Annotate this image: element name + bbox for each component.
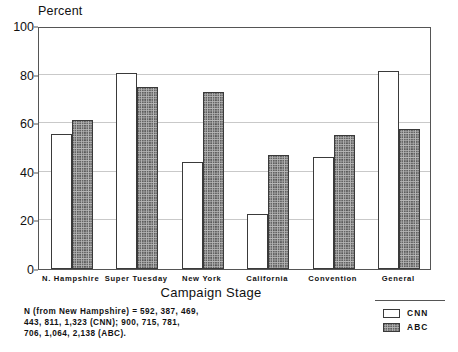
chart-footnote: N (from New Hampshire) = 592, 387, 469,4…	[24, 306, 239, 340]
x-axis-title: Campaign Stage	[0, 285, 458, 300]
legend-swatch-abc	[383, 323, 400, 332]
x-tick-label-general: General	[382, 274, 415, 283]
y-axis-ticks: 020406080100	[0, 27, 34, 270]
x-tick-label-new-york: New York	[182, 274, 222, 283]
bar-cnn-general	[378, 71, 399, 269]
legend-divider	[375, 300, 445, 301]
y-tick-label: 40	[4, 166, 34, 180]
x-tick-label-super-tuesday: Super Tuesday	[105, 274, 168, 283]
legend: CNN ABC	[357, 300, 452, 336]
bar-cnn-new-york	[182, 162, 203, 269]
y-axis-title: Percent	[38, 4, 82, 18]
bar-abc-california	[268, 155, 289, 269]
footnote-line: 706, 1,064, 2,138 (ABC).	[24, 328, 239, 339]
bar-abc-general	[399, 129, 420, 269]
y-tick-label: 20	[4, 214, 34, 228]
gridline	[39, 122, 430, 123]
legend-swatch-cnn	[383, 309, 400, 318]
plot-area	[38, 27, 431, 270]
bar-abc-new-york	[203, 92, 224, 269]
y-tick-label: 100	[4, 20, 34, 34]
bar-cnn-super-tuesday	[116, 73, 137, 269]
legend-label-cnn: CNN	[407, 308, 428, 318]
bar-cnn-convention	[313, 157, 334, 269]
bar-abc-convention	[334, 135, 355, 269]
footnote-line: N (from New Hampshire) = 592, 387, 469,	[24, 306, 239, 317]
footnote-line: 443, 811, 1,323 (CNN); 900, 715, 781,	[24, 317, 239, 328]
x-tick-label-n-hampshire: N. Hampshire	[42, 274, 99, 283]
y-tick-label: 80	[4, 69, 34, 83]
legend-label-abc: ABC	[407, 322, 428, 332]
legend-item-abc: ABC	[357, 322, 452, 332]
x-tick-label-convention: Convention	[308, 274, 357, 283]
x-axis-title-text: Campaign Stage	[160, 285, 261, 300]
bar-abc-super-tuesday	[137, 87, 158, 269]
gridline	[39, 74, 430, 75]
gridline	[39, 171, 430, 172]
gridline	[39, 219, 430, 220]
bar-cnn-california	[247, 214, 268, 269]
y-tick-label: 60	[4, 117, 34, 131]
x-tick-label-california: California	[246, 274, 288, 283]
legend-item-cnn: CNN	[357, 308, 452, 318]
y-tick-label: 0	[4, 263, 34, 277]
bar-abc-n-hampshire	[72, 120, 93, 269]
bar-cnn-n-hampshire	[51, 134, 72, 269]
